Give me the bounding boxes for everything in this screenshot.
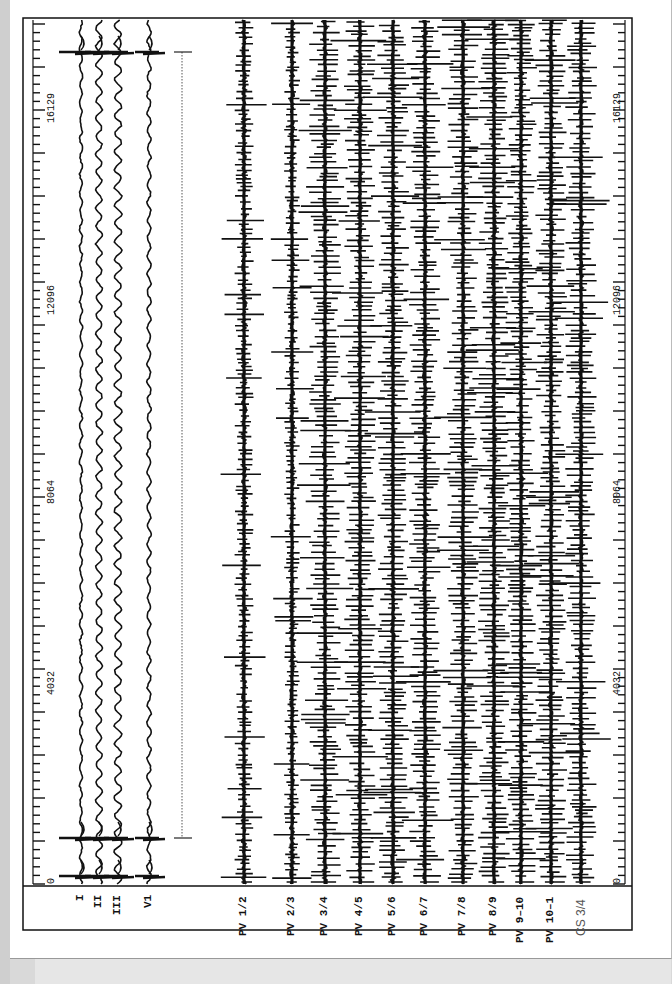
lead-label: CS 3/4 (574, 899, 588, 936)
lead-label: II (92, 895, 104, 908)
lead-label: V1 (142, 895, 154, 908)
qrs-complex (135, 838, 165, 840)
time-tick-label: 16129 (612, 93, 623, 123)
lead-label: III (111, 895, 123, 915)
traces (59, 20, 611, 884)
trace-v1 (147, 20, 152, 884)
qrs-complex (135, 876, 165, 878)
time-tick-label: 0 (46, 878, 57, 884)
lead-label: PV 7/8 (456, 896, 468, 936)
lead-label: I (74, 894, 86, 901)
lead-label: PV 3/4 (318, 896, 330, 936)
lead-label: PV 8/9 (487, 896, 499, 936)
time-tick-label: 16129 (46, 93, 57, 123)
interval-bracket (174, 52, 192, 838)
lead-label: PV 2/3 (285, 896, 297, 936)
trace-i (79, 20, 83, 884)
time-tick-label: 4032 (612, 671, 623, 695)
lead-label: PV 4/5 (353, 896, 365, 936)
lead-label: PV 6/7 (418, 896, 430, 936)
qrs-complex (135, 52, 165, 54)
time-tick-label: 0 (612, 878, 623, 884)
trace-ii (95, 20, 102, 884)
time-tick-label: 8064 (612, 480, 623, 504)
time-tick-label: 8064 (46, 480, 57, 504)
time-tick-label: 4032 (46, 671, 57, 695)
time-tick-label: 12096 (46, 285, 57, 315)
time-tick-label: 12096 (612, 285, 623, 315)
trace-iii (114, 20, 122, 884)
lead-label: PV 10–1 (544, 897, 556, 943)
lead-label: PV 9–10 (514, 897, 526, 943)
time-axis-right (613, 20, 625, 884)
lead-label: PV 1/2 (237, 896, 249, 936)
lead-label: PV 5/6 (386, 896, 398, 936)
time-axis-left (33, 20, 45, 884)
